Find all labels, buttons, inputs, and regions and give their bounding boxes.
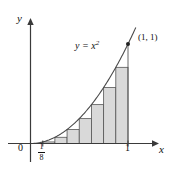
curve-equation-base: y = x bbox=[75, 40, 96, 51]
fraction-numerator: 1 bbox=[40, 143, 44, 151]
plot-canvas bbox=[0, 0, 180, 183]
riemann-rectangle bbox=[91, 105, 103, 144]
curve-equation-exponent: 2 bbox=[96, 39, 100, 47]
x-tick-label-one: 1 bbox=[125, 143, 130, 153]
point-marker-1-1 bbox=[126, 42, 130, 46]
x-tick-label-one-eighth: 1 8 bbox=[38, 143, 45, 163]
figure-riemann-sum: y x 0 1 y = x2 (1, 1) 1 8 bbox=[0, 0, 180, 183]
x-axis-label: x bbox=[159, 144, 164, 155]
y-axis-label: y bbox=[17, 13, 22, 24]
riemann-rectangles bbox=[43, 67, 128, 143]
riemann-rectangle bbox=[116, 67, 128, 143]
riemann-rectangle bbox=[55, 137, 67, 143]
origin-label: 0 bbox=[18, 143, 23, 153]
point-coordinate-label: (1, 1) bbox=[138, 33, 158, 42]
curve-equation-label: y = x2 bbox=[75, 40, 99, 51]
riemann-rectangle bbox=[67, 130, 79, 144]
y-axis bbox=[27, 18, 33, 162]
fraction-denominator: 8 bbox=[40, 154, 44, 162]
riemann-rectangle bbox=[104, 88, 116, 144]
riemann-rectangle bbox=[79, 119, 91, 144]
